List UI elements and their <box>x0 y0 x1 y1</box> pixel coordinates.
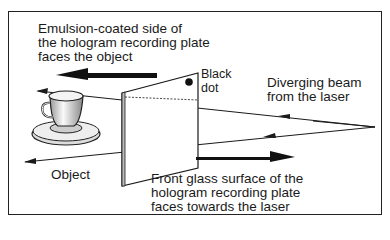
beam-line-1: Diverging beam <box>267 76 362 90</box>
emulsion-label: Emulsion-coated side of the hologram rec… <box>38 22 210 64</box>
black-dot-icon <box>185 78 193 86</box>
black-dot-label: Black dot <box>201 67 232 95</box>
emulsion-line-3: faces the object <box>38 50 210 64</box>
front-glass-line-2: hologram recording plate <box>151 186 303 200</box>
front-glass-line-3: faces towards the laser <box>151 200 303 214</box>
front-glass-line-1: Front glass surface of the <box>151 172 303 186</box>
hologram-plate <box>122 73 198 186</box>
arrow-left-icon <box>56 68 157 80</box>
front-glass-label: Front glass surface of the hologram reco… <box>151 172 303 214</box>
black-dot-line-1: Black <box>201 67 232 81</box>
object-label: Object <box>51 168 90 182</box>
arrow-right-icon <box>196 151 295 162</box>
emulsion-line-1: Emulsion-coated side of <box>38 22 210 36</box>
emulsion-line-2: the hologram recording plate <box>38 36 210 50</box>
beam-line-2: from the laser <box>267 90 362 104</box>
beam-label: Diverging beam from the laser <box>267 76 362 104</box>
teacup-object-icon <box>32 91 100 145</box>
black-dot-line-2: dot <box>201 81 232 95</box>
